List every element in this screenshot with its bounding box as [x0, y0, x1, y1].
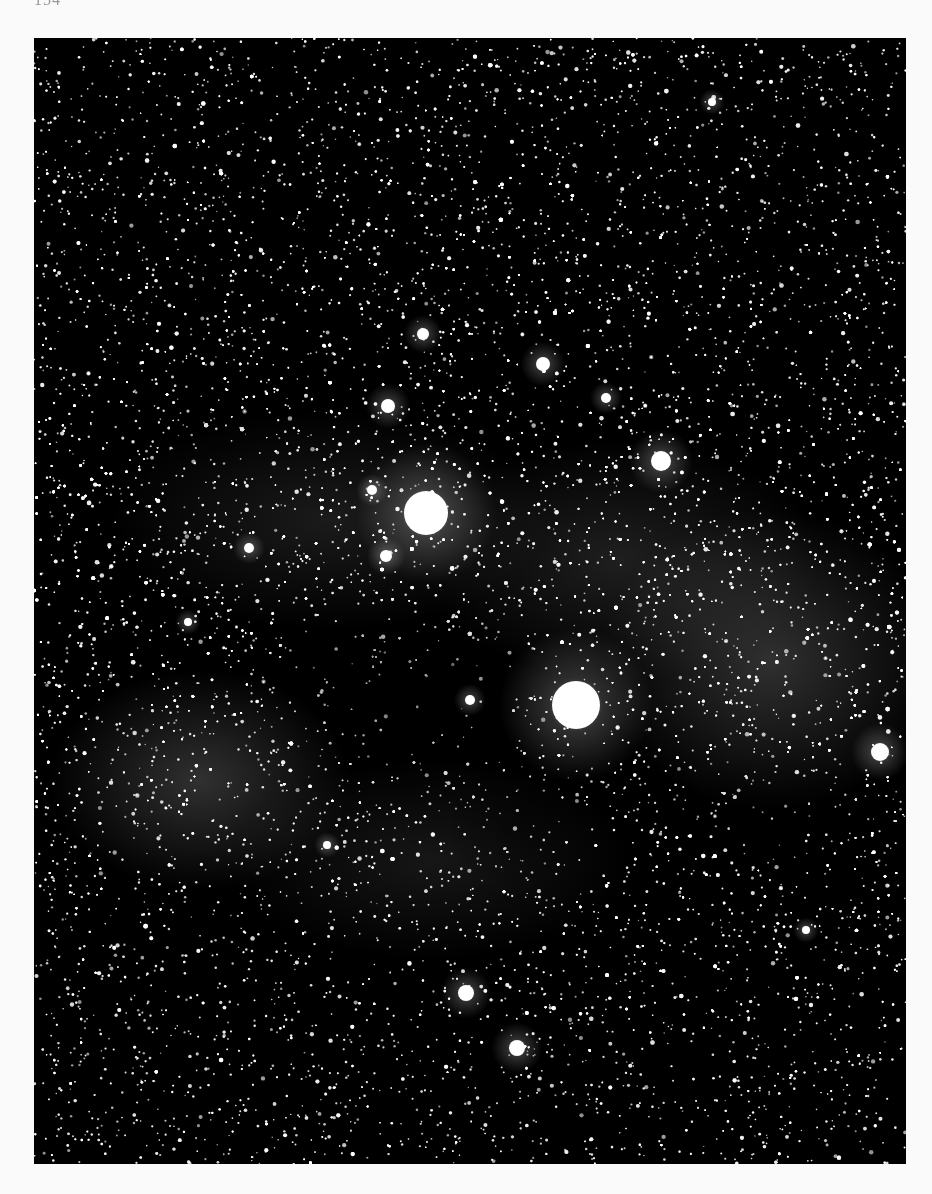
star-field-canvas: [34, 38, 906, 1164]
book-page: 154: [0, 0, 932, 1194]
star-field-photograph: [34, 38, 906, 1164]
page-number: 154: [34, 0, 61, 9]
